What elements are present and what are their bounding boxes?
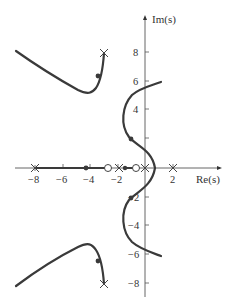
y-tick-label: −6 <box>128 249 139 260</box>
locus-branch-lower-left <box>16 244 104 286</box>
zero-marker-icon <box>133 165 140 172</box>
y-tick-label: −4 <box>128 220 140 231</box>
y-tick-label: 6 <box>133 76 138 87</box>
zero-marker-icon <box>105 165 112 172</box>
locus-point <box>96 74 101 79</box>
locus-branch-upper-left <box>16 51 104 93</box>
root-locus-diagram: Im(s) Re(s) −8 −6 −4 −2 2 8 6 4 −2 −4 −6… <box>0 0 233 307</box>
x-tick-label: −6 <box>56 174 67 185</box>
imag-axis-arrow-icon <box>143 15 147 20</box>
y-tick-label: 8 <box>133 47 138 58</box>
locus-point <box>129 137 134 142</box>
locus-point <box>84 166 89 171</box>
y-tick-label: −8 <box>128 278 139 289</box>
locus-point <box>96 259 101 264</box>
x-axis-label: Re(s) <box>196 173 220 186</box>
axes <box>15 15 222 297</box>
x-tick-label: 2 <box>170 174 175 185</box>
x-tick-label: −8 <box>28 174 39 185</box>
y-tick-label: 4 <box>133 104 139 115</box>
x-tick-label: −2 <box>111 174 122 185</box>
real-axis-arrow-icon <box>217 166 222 170</box>
x-tick-label: −4 <box>83 174 95 185</box>
locus-point <box>123 166 127 170</box>
locus-point <box>129 196 134 201</box>
y-axis-label: Im(s) <box>152 13 176 26</box>
